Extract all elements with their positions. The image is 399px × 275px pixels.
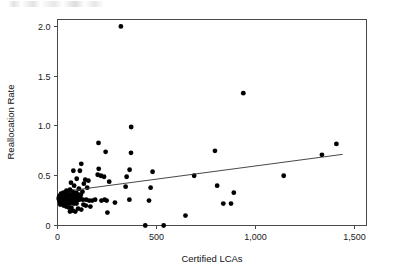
data-point (123, 184, 128, 189)
data-point (71, 168, 76, 173)
trend-line (74, 154, 343, 190)
data-point (93, 197, 98, 202)
data-point (107, 179, 112, 184)
data-point (88, 204, 93, 209)
data-point (229, 201, 234, 206)
data-point (86, 178, 91, 183)
y-tick-label: 0.5 (38, 171, 51, 181)
y-tick-label: 1.5 (38, 72, 51, 82)
data-point (103, 149, 108, 154)
data-point (215, 183, 220, 188)
data-point (96, 166, 101, 171)
data-point (73, 209, 78, 214)
data-point (77, 168, 82, 173)
data-point (129, 150, 134, 155)
data-point (79, 207, 84, 212)
data-point (68, 209, 73, 214)
data-point (74, 201, 79, 206)
trend-line-layer (74, 154, 343, 190)
data-point (79, 161, 84, 166)
data-point (124, 174, 129, 179)
x-tick-label: 500 (149, 232, 164, 242)
y-tick-label: 1.0 (38, 121, 51, 131)
data-point (213, 148, 218, 153)
scatter-plot-figure: 00.51.01.52.0 05001,0001,500 Certified L… (0, 0, 399, 275)
plot-canvas: 00.51.01.52.0 05001,0001,500 Certified L… (0, 0, 399, 275)
data-point (161, 223, 166, 228)
data-point (83, 203, 88, 208)
data-point (241, 91, 246, 96)
y-axis: 00.51.01.52.0 (38, 22, 58, 231)
x-tick-label: 0 (55, 232, 60, 242)
data-point (129, 125, 134, 130)
plot-frame (58, 20, 367, 226)
data-point (85, 185, 90, 190)
data-point (281, 173, 286, 178)
x-tick-label: 1,000 (244, 232, 267, 242)
data-point (102, 174, 107, 179)
y-tick-label: 0 (45, 221, 50, 231)
y-tick-label: 2.0 (38, 22, 51, 32)
data-point (104, 198, 109, 203)
data-point (113, 200, 118, 205)
data-point (150, 169, 155, 174)
data-point (127, 197, 132, 202)
y-axis-title: Reallocation Rate (5, 85, 16, 160)
data-point (148, 185, 153, 190)
data-point (147, 198, 152, 203)
data-point (231, 190, 236, 195)
data-point (74, 176, 79, 181)
data-point (334, 142, 339, 147)
data-point (221, 201, 226, 206)
data-point (72, 183, 77, 188)
data-point (183, 213, 188, 218)
data-point (118, 24, 123, 29)
x-axis-title: Certified LCAs (181, 253, 242, 264)
data-point (81, 181, 86, 186)
data-points-layer (56, 24, 339, 228)
data-point (127, 167, 132, 172)
data-point (105, 210, 110, 215)
data-point (143, 223, 148, 228)
x-tick-label: 1,500 (343, 232, 366, 242)
x-axis: 05001,0001,500 (55, 226, 366, 242)
data-point (96, 141, 101, 146)
